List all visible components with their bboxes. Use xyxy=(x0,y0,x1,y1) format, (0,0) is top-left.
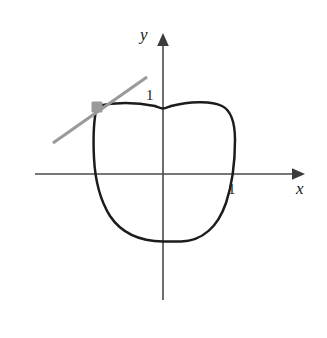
y-axis-label: y xyxy=(140,26,148,43)
y-axis-tick-label-1: 1 xyxy=(146,88,154,103)
x-axis-tick-label-1: 1 xyxy=(228,182,236,197)
y-axis-arrowhead xyxy=(157,33,169,46)
x-axis-label: x xyxy=(296,180,304,197)
point-of-tangency-marker xyxy=(92,102,103,113)
figure-graphic xyxy=(0,0,327,338)
closed-curve xyxy=(94,102,235,241)
figure-canvas: y x 1 1 xyxy=(0,0,327,338)
